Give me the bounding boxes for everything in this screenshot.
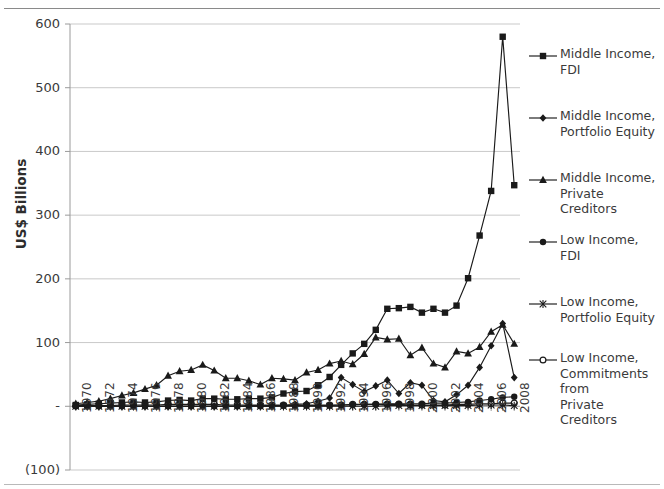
- data-point-marker: [453, 302, 459, 308]
- legend-marker-asterisk-icon: [528, 296, 558, 310]
- data-point-marker: [539, 176, 547, 183]
- data-point-marker: [303, 388, 309, 394]
- data-point-marker: [453, 347, 461, 354]
- data-point-marker: [488, 188, 494, 194]
- data-point-marker: [384, 306, 390, 312]
- y-tick-label: (100): [8, 463, 60, 476]
- data-point-marker: [488, 342, 495, 350]
- data-point-marker: [419, 401, 425, 407]
- legend-label-0: Middle Income,FDI: [560, 46, 664, 77]
- data-point-marker: [73, 402, 79, 408]
- y-tick-label: 500: [8, 81, 60, 94]
- data-point-marker: [540, 114, 547, 122]
- legend-marker-triangle-icon: [528, 172, 558, 186]
- legend-label-line: Low Income,: [560, 350, 664, 366]
- data-point-marker: [476, 232, 482, 238]
- x-tick-label: 2008: [519, 382, 531, 413]
- x-tick-label: 1970: [81, 382, 93, 413]
- x-tick-label: 1976: [150, 382, 162, 413]
- data-point-marker: [119, 399, 125, 405]
- x-tick-label: 1972: [104, 382, 116, 413]
- series-0: [73, 34, 518, 409]
- data-point-marker: [540, 239, 546, 245]
- series-line: [76, 37, 514, 405]
- legend-label-5: Low Income,Commitments fromPrivate Credi…: [560, 350, 664, 428]
- data-point-marker: [396, 401, 402, 407]
- legend-label-line: Portfolio Equity: [560, 310, 664, 326]
- x-tick-label: 1994: [358, 382, 370, 413]
- y-tick-label: 100: [8, 336, 60, 349]
- legend-label-4: Low Income,Portfolio Equity: [560, 294, 664, 325]
- data-point-marker: [233, 374, 241, 381]
- data-point-marker: [188, 397, 194, 403]
- x-tick-label: 1992: [335, 382, 347, 413]
- legend-label-line: Middle Income,: [560, 170, 664, 186]
- legend-label-line: FDI: [560, 248, 664, 264]
- legend-label-line: Private Creditors: [560, 397, 664, 428]
- data-point-marker: [257, 395, 263, 401]
- data-point-marker: [199, 361, 207, 368]
- data-point-marker: [372, 333, 380, 340]
- data-point-marker: [314, 366, 322, 373]
- data-point-marker: [326, 394, 333, 402]
- x-tick-label: 1984: [242, 382, 254, 413]
- x-tick-label: 2004: [473, 382, 485, 413]
- data-point-marker: [165, 397, 171, 403]
- y-tick-label: 400: [8, 144, 60, 157]
- legend-marker-circle-icon: [528, 234, 558, 248]
- legend-label-2: Middle Income,Private Creditors: [560, 170, 664, 217]
- legend-label-line: Low Income,: [560, 294, 664, 310]
- legend-label-3: Low Income,FDI: [560, 232, 664, 263]
- legend-marker-square-icon: [528, 48, 558, 62]
- data-point-marker: [210, 366, 218, 373]
- data-point-marker: [395, 335, 403, 342]
- data-point-marker: [211, 395, 217, 401]
- data-point-marker: [511, 374, 518, 382]
- data-point-marker: [361, 341, 367, 347]
- data-point-marker: [349, 402, 355, 408]
- data-point-marker: [349, 350, 355, 356]
- legend-marker-open-circle-icon: [528, 352, 558, 366]
- y-tick-label: 300: [8, 208, 60, 221]
- x-tick-label: 1974: [127, 382, 139, 413]
- x-tick-label: 2002: [450, 382, 462, 413]
- data-point-marker: [142, 399, 148, 405]
- data-point-marker: [326, 374, 332, 380]
- x-tick-label: 1990: [312, 382, 324, 413]
- legend-label-line: Middle Income,: [560, 108, 664, 124]
- data-point-marker: [419, 309, 425, 315]
- x-tick-label: 1998: [404, 382, 416, 413]
- data-point-marker: [373, 327, 379, 333]
- data-point-marker: [96, 401, 102, 407]
- x-tick-label: 1980: [196, 382, 208, 413]
- data-point-marker: [373, 401, 379, 407]
- data-point-marker: [511, 182, 517, 188]
- data-point-marker: [430, 306, 436, 312]
- data-point-marker: [326, 402, 332, 408]
- x-tick-label: 1982: [219, 382, 231, 413]
- y-tick-label: 600: [8, 17, 60, 30]
- data-point-marker: [280, 390, 286, 396]
- data-point-marker: [465, 275, 471, 281]
- y-tick-label: 200: [8, 272, 60, 285]
- data-point-marker: [407, 304, 413, 310]
- data-point-marker: [372, 382, 379, 390]
- legend-label-line: Middle Income,: [560, 46, 664, 62]
- y-tick-label: -: [8, 399, 60, 412]
- data-point-marker: [511, 394, 517, 400]
- legend-label-1: Middle Income,Portfolio Equity: [560, 108, 664, 139]
- data-point-marker: [268, 374, 276, 381]
- x-tick-label: 1978: [173, 382, 185, 413]
- data-point-marker: [487, 328, 495, 335]
- data-point-marker: [338, 362, 344, 368]
- data-point-marker: [418, 343, 426, 350]
- legend-label-line: FDI: [560, 62, 664, 78]
- legend-label-line: Private Creditors: [560, 186, 664, 217]
- data-point-marker: [465, 399, 471, 405]
- legend-label-line: Commitments from: [560, 366, 664, 397]
- x-tick-label: 2000: [427, 382, 439, 413]
- x-tick-label: 1986: [265, 382, 277, 413]
- data-point-marker: [510, 340, 518, 347]
- legend-label-line: Portfolio Equity: [560, 124, 664, 140]
- data-point-marker: [234, 396, 240, 402]
